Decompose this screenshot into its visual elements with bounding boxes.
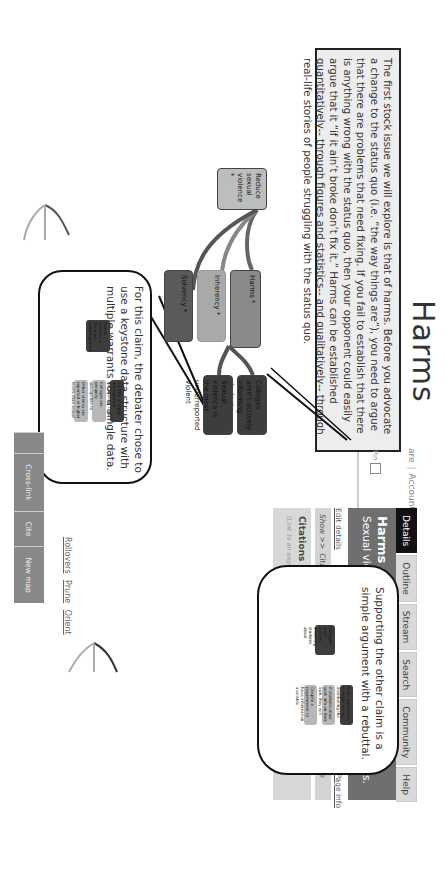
solvency-node[interactable]: Solvency * bbox=[164, 270, 193, 342]
harms-child-node[interactable]: Sexual violence is the most underreporte… bbox=[203, 375, 233, 435]
mini-child-node: 14-33% of rapes are reported nationwide.… bbox=[110, 380, 124, 422]
root-node[interactable]: Reduce sexual violence * bbox=[217, 168, 267, 210]
mini-child-node: Despite a requirement to have informatio… bbox=[304, 685, 317, 725]
map-links: Rollovers Prune Orient bbox=[63, 537, 72, 639]
mini-child-node: Colleges are uniquely susceptible to und… bbox=[92, 380, 106, 422]
cross-link-button[interactable]: Cross-link bbox=[14, 453, 44, 511]
mini-claim-node: Sexual violence is the most underreporte… bbox=[86, 320, 110, 352]
new-map-button[interactable]: New map bbox=[14, 546, 44, 602]
harms-child-node[interactable]: Colleges aren't actively informing stude… bbox=[237, 375, 267, 435]
rollovers-link[interactable]: Rollovers bbox=[63, 537, 72, 574]
mini-child-node: From experience colleges are not distrib… bbox=[340, 685, 353, 725]
inherency-node[interactable]: Inherency * bbox=[197, 270, 226, 342]
prune-link[interactable]: Prune bbox=[63, 580, 72, 603]
cite-button[interactable]: Cite bbox=[14, 511, 44, 547]
page: Harms The first stock issue we will expl… bbox=[0, 0, 447, 873]
map-toolbar: Cross-link Cite New map bbox=[14, 432, 44, 603]
callout-text: Supporting the other claim is a simple a… bbox=[359, 587, 387, 767]
orient-link[interactable]: Orient bbox=[63, 610, 72, 635]
mini-claim-node: Colleges aren't actively informing stude… bbox=[315, 625, 335, 655]
mini-child-node: Other crimes are reported at higher leve… bbox=[74, 380, 88, 422]
harms-node[interactable]: Harms * bbox=[230, 270, 261, 348]
callout-keystone: For this claim, the debater chose to use… bbox=[38, 270, 152, 484]
callout-simple-argument: Supporting the other claim is a simple a… bbox=[257, 565, 399, 775]
mini-child-node: If students must seek info on their own,… bbox=[322, 685, 335, 725]
toolbar-spacer bbox=[14, 432, 44, 453]
